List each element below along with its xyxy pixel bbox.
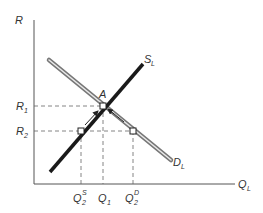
y-tick-r2: R 2 — [16, 125, 28, 139]
supply-point-r2 — [78, 128, 84, 134]
supply-curve — [50, 64, 143, 172]
demand-label: D L — [173, 156, 185, 170]
y-tick-r1: R 1 — [16, 100, 28, 114]
svg-text:Q: Q — [98, 192, 107, 204]
svg-text:Q: Q — [125, 192, 134, 204]
svg-text:L: L — [151, 60, 155, 67]
svg-text:2: 2 — [23, 132, 28, 139]
svg-text:1: 1 — [107, 199, 111, 206]
svg-text:1: 1 — [24, 107, 28, 114]
labor-market-diagram: R Q L S L D L A R 1 R 2 Q 2 — [0, 0, 263, 213]
svg-text:2: 2 — [81, 199, 86, 206]
svg-text:L: L — [181, 163, 185, 170]
svg-text:2: 2 — [133, 199, 138, 206]
equilibrium-label: A — [98, 88, 106, 100]
equilibrium-point — [100, 103, 106, 109]
svg-text:S: S — [82, 189, 87, 196]
x-tick-q2d: Q 2 D — [125, 189, 139, 206]
svg-text:D: D — [173, 156, 181, 168]
x-tick-q1: Q 1 — [98, 192, 111, 206]
svg-text:D: D — [134, 189, 139, 196]
svg-text:R: R — [16, 125, 24, 137]
x-tick-q2s: Q 2 S — [73, 189, 87, 206]
svg-text:Q: Q — [238, 178, 247, 190]
y-axis-label: R — [15, 14, 23, 26]
svg-text:L: L — [247, 185, 251, 192]
demand-point-r2 — [130, 128, 136, 134]
x-axis-label: Q L — [238, 178, 251, 192]
svg-text:R: R — [16, 100, 24, 112]
demand-adjust-arrow — [108, 109, 124, 122]
svg-text:Q: Q — [73, 192, 82, 204]
supply-label: S L — [144, 53, 155, 67]
